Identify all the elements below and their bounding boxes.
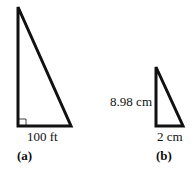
triangle-a	[18, 7, 71, 126]
caption-b: (b)	[156, 149, 172, 162]
triangle-b	[156, 67, 183, 126]
base-label-a: 100 ft	[27, 130, 58, 143]
height-label-b: 8.98 cm	[110, 95, 152, 108]
right-angle-marker-a	[19, 119, 26, 125]
base-label-b: 2 cm	[157, 130, 183, 143]
caption-a: (a)	[17, 149, 32, 162]
